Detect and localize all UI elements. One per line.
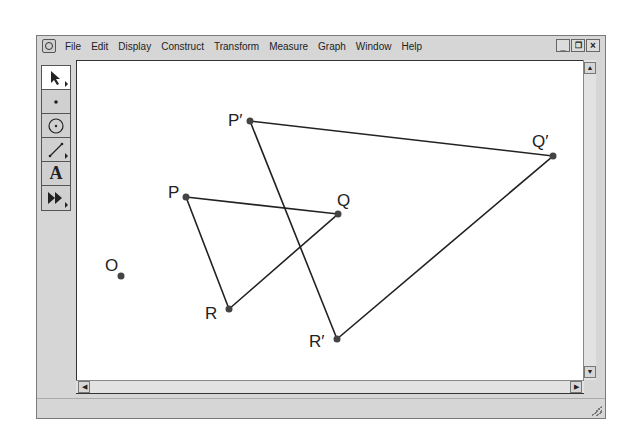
- straightedge-tool[interactable]: [42, 138, 70, 162]
- label-Q[interactable]: Q: [337, 191, 350, 210]
- triangle-PQR-image[interactable]: [250, 121, 553, 339]
- status-bar: [37, 398, 605, 419]
- menu-help[interactable]: Help: [396, 41, 427, 52]
- menu-file[interactable]: File: [60, 41, 86, 52]
- label-R-prime[interactable]: R′: [309, 332, 324, 351]
- point-R-prime[interactable]: [334, 336, 341, 343]
- scroll-left-button[interactable]: ◀: [78, 381, 90, 393]
- menu-bar: File Edit Display Construct Transform Me…: [37, 36, 605, 56]
- menu-transform[interactable]: Transform: [209, 41, 264, 52]
- point-R[interactable]: [226, 306, 233, 313]
- scroll-down-button[interactable]: ▼: [584, 366, 596, 378]
- point-P[interactable]: [183, 194, 190, 201]
- menu-display[interactable]: Display: [113, 41, 156, 52]
- submenu-triangle-icon: [65, 202, 68, 208]
- sketch-canvas[interactable]: P′ Q′ R′ P Q R O: [76, 60, 584, 380]
- label-P[interactable]: P: [168, 183, 179, 202]
- menu-construct[interactable]: Construct: [156, 41, 209, 52]
- app-icon[interactable]: [42, 39, 56, 53]
- toolbox: A: [41, 65, 71, 211]
- selection-arrow-tool[interactable]: [42, 66, 70, 90]
- arrow-icon: [48, 70, 64, 86]
- custom-tool[interactable]: [42, 186, 70, 210]
- label-P-prime[interactable]: P′: [228, 111, 243, 130]
- submenu-triangle-icon: [65, 153, 68, 159]
- point-Q-prime[interactable]: [550, 153, 557, 160]
- sketchpad-window: File Edit Display Construct Transform Me…: [36, 35, 606, 419]
- restore-button[interactable]: ❐: [571, 39, 585, 52]
- point-tool[interactable]: [42, 90, 70, 114]
- text-A-icon: A: [50, 163, 63, 184]
- menu-edit[interactable]: Edit: [86, 41, 113, 52]
- segment-icon: [47, 141, 65, 159]
- compass-circle-icon: [47, 117, 65, 135]
- point-icon: [48, 94, 64, 110]
- menu-graph[interactable]: Graph: [313, 41, 351, 52]
- geometry-drawing: P′ Q′ R′ P Q R O: [77, 61, 585, 381]
- triangle-PQR[interactable]: [186, 197, 338, 309]
- vertical-scrollbar[interactable]: ▲ ▼: [583, 60, 596, 380]
- label-R[interactable]: R: [205, 304, 217, 323]
- label-Q-prime[interactable]: Q′: [532, 132, 548, 151]
- menu-window[interactable]: Window: [351, 41, 397, 52]
- point-Q[interactable]: [335, 211, 342, 218]
- point-O[interactable]: [118, 273, 125, 280]
- fast-forward-icon: [47, 191, 65, 205]
- label-O[interactable]: O: [105, 256, 118, 275]
- compass-tool[interactable]: [42, 114, 70, 138]
- menu-measure[interactable]: Measure: [264, 41, 313, 52]
- submenu-triangle-icon: [65, 81, 68, 87]
- resize-grip-icon[interactable]: [592, 406, 602, 416]
- text-tool[interactable]: A: [42, 162, 70, 186]
- horizontal-scrollbar[interactable]: ◀ ▶: [76, 380, 584, 394]
- minimize-button[interactable]: _: [556, 39, 570, 52]
- point-P-prime[interactable]: [247, 118, 254, 125]
- scroll-up-button[interactable]: ▲: [584, 62, 596, 74]
- scroll-right-button[interactable]: ▶: [570, 381, 582, 393]
- close-button[interactable]: ×: [586, 39, 600, 52]
